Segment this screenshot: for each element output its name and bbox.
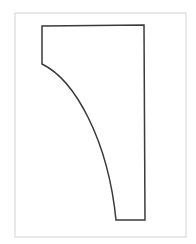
diagram-svg xyxy=(0,0,196,244)
page-frame xyxy=(15,13,186,237)
drawing-canvas xyxy=(0,0,196,244)
